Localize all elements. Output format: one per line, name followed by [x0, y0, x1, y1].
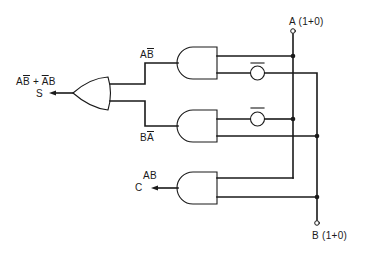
a-terminal-icon — [291, 29, 296, 34]
junction-a-top — [291, 54, 296, 59]
inverter-b-icon — [251, 66, 265, 80]
sum-output-label: S — [36, 89, 43, 99]
junction-b-middle — [315, 134, 320, 139]
and-gate-middle — [177, 110, 217, 142]
junction-a-middle — [291, 117, 296, 122]
and-gate-top — [177, 47, 217, 79]
sum-output-arrow-icon — [49, 91, 56, 96]
sum-expression-label: AB + AB — [16, 77, 56, 87]
b-terminal-icon — [315, 221, 320, 226]
inverter-a-icon — [251, 112, 265, 126]
and-middle-output-label: BA — [140, 133, 154, 143]
junction-b-bottom — [315, 195, 320, 200]
and-top-output-label: AB — [140, 50, 154, 60]
b-input-bus — [265, 73, 317, 220]
carry-expression-label: AB — [143, 171, 157, 181]
a-input-label: A (1+0) — [289, 17, 324, 27]
carry-output-arrow-icon — [151, 186, 158, 191]
carry-output-label: C — [135, 183, 143, 193]
half-adder-diagram — [0, 0, 373, 255]
b-input-label: B (1+0) — [312, 231, 347, 241]
wire-and-top-to-or — [110, 63, 178, 84]
and-gate-bottom — [177, 172, 217, 204]
or-gate — [73, 77, 111, 110]
wire-and-middle-to-or — [110, 101, 178, 126]
